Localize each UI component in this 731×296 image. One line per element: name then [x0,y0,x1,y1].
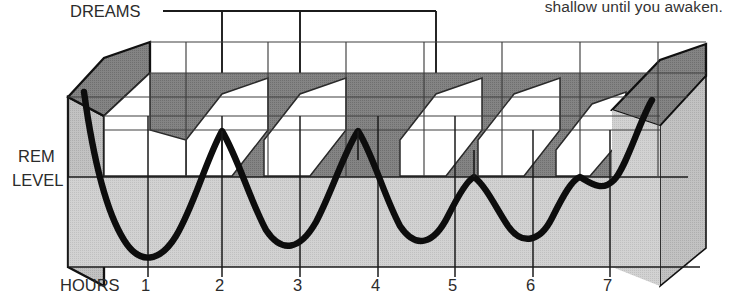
hour-tick-1: 1 [141,276,150,294]
diagram-canvas: DREAMS REM LEVEL HOURS 1 2 3 4 5 6 7 [0,0,731,296]
dreams-label: DREAMS [70,2,141,20]
rem-label-line1: REM [18,147,55,165]
hour-tick-6: 6 [526,276,535,294]
hour-tick-5: 5 [448,276,457,294]
hours-axis-label: HOURS [60,276,120,294]
hour-tick-7: 7 [603,276,612,294]
hour-tick-4: 4 [371,276,380,294]
hour-tick-labels: 1 2 3 4 5 6 7 [141,276,612,294]
hour-tick-3: 3 [293,276,302,294]
caption-text: shallow until you awaken. [545,0,723,16]
hour-tick-2: 2 [215,276,224,294]
sleep-cycle-figure: shallow until you awaken. [0,0,731,296]
rem-label-line2: LEVEL [12,171,63,189]
